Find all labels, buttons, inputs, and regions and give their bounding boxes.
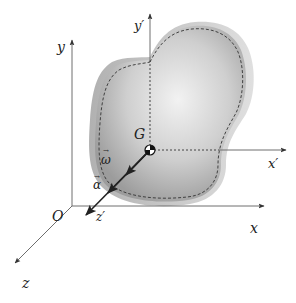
label-x-prime: x′ bbox=[268, 156, 278, 171]
label-y-prime: y′ bbox=[133, 18, 144, 33]
label-y: y bbox=[56, 39, 66, 55]
label-z-prime: z′ bbox=[95, 210, 105, 224]
label-O: O bbox=[52, 208, 64, 224]
svg-text:α: α bbox=[93, 178, 101, 192]
svg-text:ω: ω bbox=[101, 153, 111, 167]
center-of-mass-symbol bbox=[145, 145, 155, 155]
label-z: z bbox=[21, 275, 30, 291]
label-G: G bbox=[134, 126, 145, 142]
rigid-body-diagram: y y′ G x′ x z O z′ → ω → α bbox=[0, 0, 296, 303]
label-x: x bbox=[250, 220, 258, 236]
